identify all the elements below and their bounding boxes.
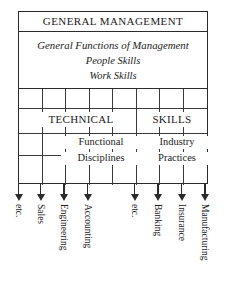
column-label-insurance: Insurance xyxy=(176,204,186,241)
down-arrow-icon-3 xyxy=(60,184,69,202)
grid-column-divider-1 xyxy=(42,89,43,185)
general-functions-line-3: Work Skills xyxy=(89,68,136,83)
down-arrow-icon-5 xyxy=(130,184,139,202)
down-arrow-icon-8 xyxy=(201,184,210,202)
general-functions-line-2: People Skills xyxy=(86,53,141,68)
sub-label-disciplines: Disciplines xyxy=(61,152,141,165)
general-functions-band: General Functions of Management People S… xyxy=(19,32,207,89)
general-management-header: GENERAL MANAGEMENT xyxy=(19,12,207,32)
column-label-engineering: Engineering xyxy=(59,204,69,250)
down-arrow-icon-4 xyxy=(83,184,92,202)
band-label-skills: SKILLS xyxy=(138,112,206,127)
column-label-manufacturing: Manufacturing xyxy=(200,204,210,260)
column-label-accounting: Accounting xyxy=(82,204,92,248)
diagram-canvas: GENERAL MANAGEMENT General Functions of … xyxy=(0,0,225,282)
band-label-technical: TECHNICAL xyxy=(40,112,122,127)
down-arrow-icon-6 xyxy=(154,184,163,202)
management-framework-box: GENERAL MANAGEMENT General Functions of … xyxy=(18,11,208,184)
sub-label-industry: Industry xyxy=(141,136,213,149)
sub-label-functional: Functional xyxy=(61,136,141,149)
column-label-banking: Banking xyxy=(153,204,163,236)
column-label-sales: Sales xyxy=(35,204,45,224)
column-label-etc-1: etc. xyxy=(13,204,23,217)
general-functions-line-1: General Functions of Management xyxy=(37,38,188,53)
page-title: GENERAL MANAGEMENT xyxy=(43,16,183,27)
down-arrow-icon-2 xyxy=(36,184,45,202)
down-arrow-icon-7 xyxy=(177,184,186,202)
column-label-etc-2: etc. xyxy=(129,204,139,217)
sub-label-practices: Practices xyxy=(141,152,213,165)
down-arrow-icon-1 xyxy=(14,184,23,202)
skills-grid: TECHNICAL SKILLS Functional Disciplines … xyxy=(19,89,207,185)
